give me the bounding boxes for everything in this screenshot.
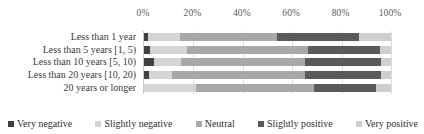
category-label: Less than 10 years [5, 10): [0, 57, 136, 67]
bar-row: [144, 58, 391, 66]
bar-segment: [144, 84, 196, 92]
bar-segment: [381, 58, 391, 66]
category-label: 20 years or longer: [0, 83, 136, 93]
plot-area: [143, 31, 391, 94]
stacked-bar-chart: 0%20%40%60%80%100% Less than 1 yearLess …: [0, 0, 424, 134]
legend-item[interactable]: Very positive: [356, 119, 418, 129]
bar-segment: [148, 33, 180, 41]
legend-swatch-icon: [95, 121, 101, 127]
legend-label: Very negative: [17, 119, 72, 129]
bar-row: [144, 71, 391, 79]
legend-label: Very positive: [365, 119, 418, 129]
bar-row: [144, 84, 391, 92]
bar-segment: [305, 71, 382, 79]
bar-row: [144, 46, 391, 54]
bar-segment: [154, 58, 181, 66]
bar-segment: [172, 71, 304, 79]
legend-swatch-icon: [356, 121, 362, 127]
bar-segment: [308, 46, 380, 54]
gridline: [391, 31, 392, 94]
bar-segment: [196, 84, 315, 92]
legend-label: Slightly positive: [267, 119, 333, 129]
legend-item[interactable]: Slightly negative: [95, 119, 172, 129]
legend-label: Neutral: [205, 119, 235, 129]
category-label: Less than 5 years [1, 5): [0, 45, 136, 55]
legend-swatch-icon: [8, 121, 14, 127]
legend-item[interactable]: Slightly positive: [258, 119, 333, 129]
bar-segment: [314, 84, 376, 92]
bar-segment: [150, 46, 187, 54]
bar-segment: [180, 33, 278, 41]
bar-segment: [149, 71, 172, 79]
bar-segment: [380, 46, 391, 54]
legend-swatch-icon: [258, 121, 264, 127]
bar-row: [144, 33, 391, 41]
bar-segment: [381, 71, 391, 79]
y-axis-category-labels: Less than 1 yearLess than 5 years [1, 5)…: [0, 31, 140, 94]
bar-segment: [305, 58, 382, 66]
category-label: Less than 1 year: [0, 32, 136, 42]
chart-legend: Very negativeSlightly negativeNeutralSli…: [8, 118, 418, 130]
x-axis-tick-label: 60%: [282, 8, 300, 18]
bar-segment: [359, 33, 391, 41]
x-axis: 0%20%40%60%80%100%: [143, 8, 390, 22]
bar-segment: [187, 46, 308, 54]
x-axis-tick-label: 0%: [137, 8, 150, 18]
legend-item[interactable]: Neutral: [196, 119, 235, 129]
x-axis-tick-label: 20%: [184, 8, 202, 18]
legend-swatch-icon: [196, 121, 202, 127]
legend-item[interactable]: Very negative: [8, 119, 72, 129]
x-axis-tick-label: 100%: [379, 8, 402, 18]
category-label: Less than 20 years [10, 20): [0, 70, 136, 80]
bar-segment: [376, 84, 391, 92]
bar-segment: [144, 58, 154, 66]
bar-segment: [277, 33, 359, 41]
x-axis-tick-label: 80%: [332, 8, 350, 18]
legend-label: Slightly negative: [104, 119, 172, 129]
x-axis-tick-label: 40%: [233, 8, 251, 18]
bar-segment: [181, 58, 305, 66]
